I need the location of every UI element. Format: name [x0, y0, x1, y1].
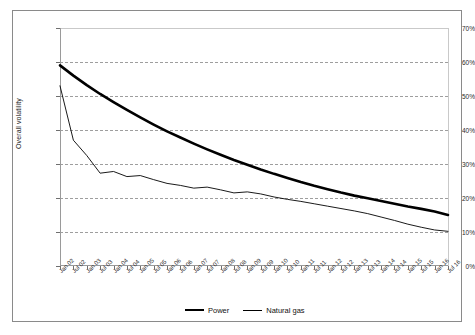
series-lines — [0, 0, 475, 335]
legend-swatch-natural-gas — [243, 310, 262, 311]
legend-entry-power: Power — [185, 306, 229, 315]
series-line-natural-gas — [60, 86, 448, 232]
legend-label-power: Power — [208, 306, 229, 315]
chart-legend: Power Natural gas — [185, 303, 365, 317]
legend-entry-natural-gas: Natural gas — [243, 306, 304, 315]
legend-label-natural-gas: Natural gas — [266, 306, 304, 315]
legend-swatch-power — [185, 309, 204, 312]
chart-container: Overall volatility 70%60%50%40%30%20%10%… — [0, 0, 475, 335]
